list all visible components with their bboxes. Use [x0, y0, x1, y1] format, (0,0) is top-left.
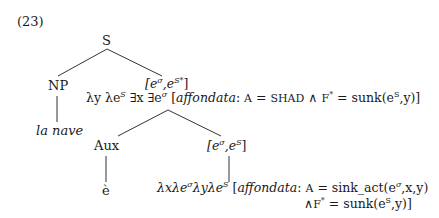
- example-number: (23): [17, 14, 44, 29]
- node-s: S: [102, 33, 111, 48]
- vp-formula: λy λeS ∃x ∃eσ [affondata: A = SHAD ∧ F* …: [86, 90, 420, 105]
- v-formula-line2: ∧F* = sunk(eS,y)]: [304, 196, 412, 211]
- node-vp-type: [eσ,eS*]: [145, 76, 189, 91]
- node-v-type: [eσ,eS]: [207, 138, 247, 153]
- v-formula-line1: λxλeσλyλeS [affondata: A = sink_act(eσ,x…: [157, 180, 428, 195]
- node-aux: Aux: [94, 138, 119, 153]
- node-np: NP: [48, 78, 68, 93]
- leaf-e-grave: è: [102, 183, 110, 198]
- leaf-la-nave: la nave: [36, 123, 83, 138]
